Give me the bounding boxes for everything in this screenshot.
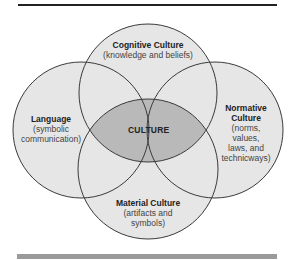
- normative-desc-1: (norms,: [216, 123, 276, 133]
- normative-desc-3: laws, and: [216, 143, 276, 153]
- cognitive-label: Cognitive Culture (knowledge and beliefs…: [98, 40, 198, 60]
- culture-center-label: CULTURE: [128, 125, 169, 135]
- material-desc-1: (artifacts and: [108, 208, 188, 218]
- language-desc-1: (symbolic: [16, 124, 86, 134]
- material-desc-2: symbols): [108, 218, 188, 228]
- cognitive-title: Cognitive Culture: [98, 40, 198, 50]
- cognitive-desc: (knowledge and beliefs): [98, 50, 198, 60]
- language-label: Language (symbolic communication): [16, 114, 86, 144]
- normative-desc-4: technicways): [216, 153, 276, 163]
- language-desc-2: communication): [16, 134, 86, 144]
- normative-desc-2: values,: [216, 133, 276, 143]
- normative-title-2: Culture: [216, 113, 276, 123]
- material-label: Material Culture (artifacts and symbols): [108, 198, 188, 228]
- material-title: Material Culture: [108, 198, 188, 208]
- language-title: Language: [16, 114, 86, 124]
- bottom-rule: [17, 254, 277, 259]
- normative-label: Normative Culture (norms, values, laws, …: [216, 103, 276, 163]
- normative-title-1: Normative: [216, 103, 276, 113]
